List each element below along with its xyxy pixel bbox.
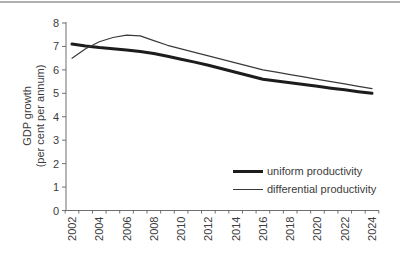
legend-label-uniform-productivity: uniform productivity bbox=[267, 165, 362, 177]
svg-text:8: 8 bbox=[53, 17, 59, 29]
chart-legend: uniform productivity differential produc… bbox=[233, 162, 376, 198]
svg-text:2020: 2020 bbox=[311, 217, 323, 241]
y-axis-title: GDP growth (per cent per annum) bbox=[21, 65, 47, 168]
svg-text:2018: 2018 bbox=[284, 217, 296, 241]
svg-text:6: 6 bbox=[53, 64, 59, 76]
uniform-productivity-line-swatch bbox=[233, 170, 263, 173]
svg-text:4: 4 bbox=[53, 111, 59, 123]
svg-text:3: 3 bbox=[53, 134, 59, 146]
svg-text:5: 5 bbox=[53, 87, 59, 99]
svg-text:2014: 2014 bbox=[230, 216, 242, 240]
svg-text:0: 0 bbox=[53, 205, 59, 217]
svg-text:2002: 2002 bbox=[66, 217, 78, 241]
svg-text:7: 7 bbox=[53, 40, 59, 52]
y-axis-title-line1: GDP growth bbox=[21, 65, 34, 168]
legend-item-uniform-productivity: uniform productivity bbox=[233, 162, 376, 180]
y-axis-title-line2: (per cent per annum) bbox=[34, 65, 47, 168]
svg-text:2008: 2008 bbox=[148, 217, 160, 241]
svg-text:2006: 2006 bbox=[121, 217, 133, 241]
legend-label-differential-productivity: differential productivity bbox=[267, 183, 376, 195]
svg-text:1: 1 bbox=[53, 181, 59, 193]
svg-text:2022: 2022 bbox=[339, 217, 351, 241]
svg-text:2016: 2016 bbox=[257, 217, 269, 241]
gdp-growth-chart: 0123456782002200420062008201020122014201… bbox=[0, 0, 400, 268]
differential-productivity-line-swatch bbox=[233, 189, 263, 190]
svg-text:2010: 2010 bbox=[175, 217, 187, 241]
svg-text:2: 2 bbox=[53, 158, 59, 170]
gdp-growth-figure: 0123456782002200420062008201020122014201… bbox=[0, 0, 400, 268]
svg-text:2004: 2004 bbox=[93, 217, 105, 241]
svg-text:2024: 2024 bbox=[366, 217, 378, 241]
svg-text:2012: 2012 bbox=[202, 217, 214, 241]
legend-item-differential-productivity: differential productivity bbox=[233, 180, 376, 198]
